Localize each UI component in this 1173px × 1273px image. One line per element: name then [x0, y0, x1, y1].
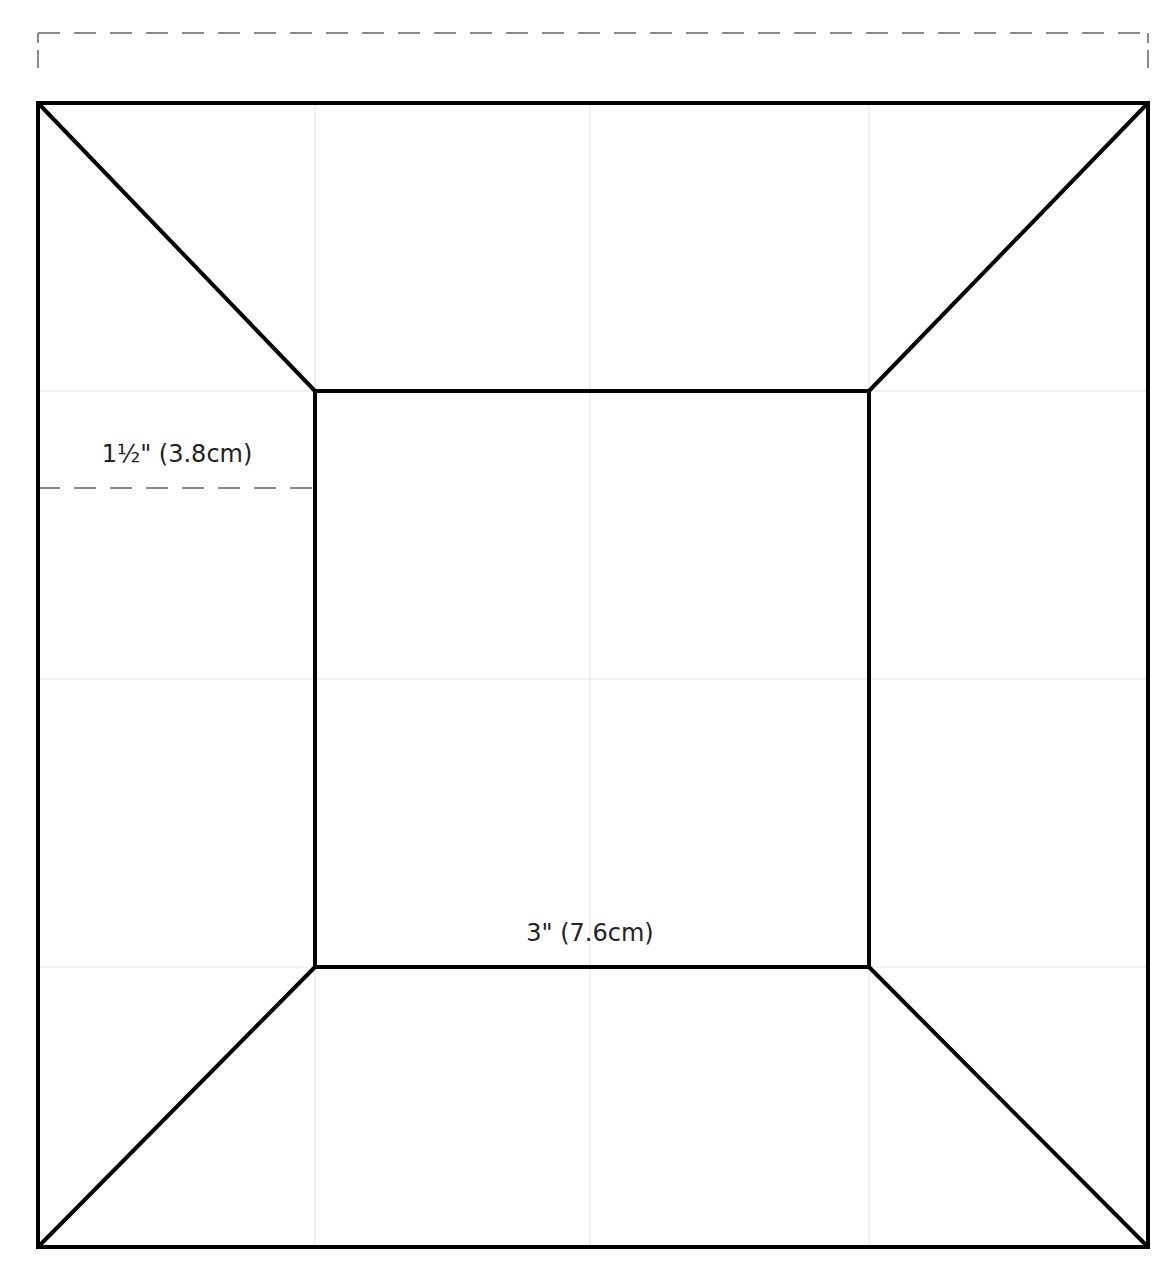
- block-outlines: [38, 103, 1148, 1247]
- miter-bottom-left: [38, 967, 315, 1247]
- miter-top-left: [38, 103, 315, 391]
- miter-top-right: [869, 103, 1148, 391]
- border-width-label: 1½" (3.8cm): [102, 440, 253, 468]
- quilt-block-diagram: 1½" (3.8cm) 3" (7.6cm): [0, 0, 1173, 1273]
- top-dimension-bracket: [38, 33, 1148, 68]
- miter-bottom-right: [869, 967, 1148, 1247]
- center-square-width-label: 3" (7.6cm): [526, 919, 653, 947]
